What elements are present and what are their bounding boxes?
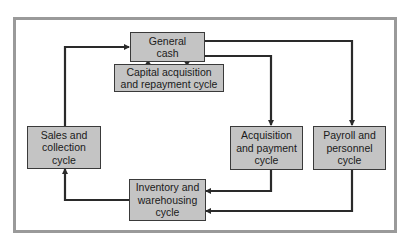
node-payroll-personnel-cycle: Payroll and personnel cycle <box>313 126 386 170</box>
node-sales-collection-cycle: Sales and collection cycle <box>27 126 101 169</box>
node-capital-acquisition-cycle: Capital acquisition and repayment cycle <box>114 64 224 92</box>
arrow-acquisition-to-inventory <box>206 169 271 191</box>
arrow-cash-to-payroll <box>204 41 352 125</box>
node-inventory-warehousing-cycle: Inventory and warehousing cycle <box>129 179 206 221</box>
node-acquisition-payment-cycle: Acquisition and payment cycle <box>230 126 303 170</box>
arrow-inventory-to-sales <box>65 169 129 200</box>
node-general-cash: General cash <box>130 32 205 62</box>
